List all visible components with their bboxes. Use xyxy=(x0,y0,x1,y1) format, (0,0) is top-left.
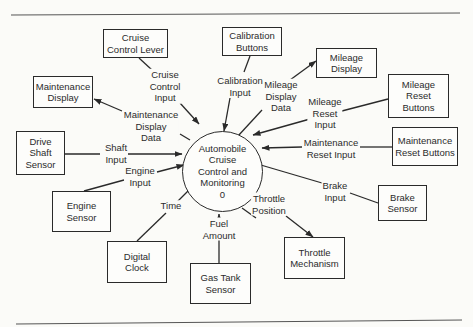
entity-brake-sensor: Brake Sensor xyxy=(378,185,427,221)
flow-line-mileage-display-data xyxy=(290,61,316,80)
flow-label-calibration-input: Calibration Input xyxy=(216,75,263,98)
entity-drive-shaft-sensor: Drive Shaft Sensor xyxy=(16,131,65,175)
entity-digital-clock: Digital Clock xyxy=(107,241,167,283)
context-diagram: Automobile Cruise Control and Monitoring… xyxy=(0,0,473,327)
flow-line-calibration-input-a xyxy=(244,56,250,72)
entity-calibration-buttons: Calibration Buttons xyxy=(222,27,282,56)
flow-line-engine-input xyxy=(157,165,184,172)
flow-line-maintenance-display-data xyxy=(94,99,122,111)
flow-line-time-a xyxy=(137,213,166,241)
flow-label-fuel-amount: Fuel Amount xyxy=(202,218,237,241)
flow-line-brake-input-a xyxy=(350,193,378,203)
flow-label-mileage-display-data: Mileage Display Data xyxy=(263,79,298,114)
entity-maintenance-display: Maintenance Display xyxy=(33,76,93,108)
flow-line-cruise-control-input xyxy=(180,103,199,124)
flow-line-mileage-reset-input-a xyxy=(338,99,388,112)
flow-line-throttle-position xyxy=(286,216,313,237)
flow-label-maintenance-display-data: Maintenance Display Data xyxy=(123,109,179,144)
entity-engine-sensor: Engine Sensor xyxy=(52,191,111,232)
flow-label-cruise-control-input: Cruise Control Input xyxy=(149,69,182,104)
flow-line-mileage-display-data-a xyxy=(238,110,262,136)
flow-label-brake-input: Brake Input xyxy=(322,180,349,203)
entity-maintenance-reset-buttons: Maintenance Reset Buttons xyxy=(392,127,458,166)
flow-line-maintenance-display-data-b xyxy=(180,134,190,140)
bottom-rule xyxy=(16,320,462,324)
flow-label-throttle-position: Throttle Position xyxy=(251,193,287,216)
entity-gas-tank-sensor: Gas Tank Sensor xyxy=(190,263,251,304)
entity-mileage-reset-buttons: Mileage Reset Buttons xyxy=(388,74,449,118)
flow-line-brake-input xyxy=(254,163,322,183)
entity-cruise-control-lever: Cruise Control Lever xyxy=(103,29,168,58)
flow-label-mileage-reset-input: Mileage Reset Input xyxy=(307,96,342,131)
top-rule xyxy=(11,13,460,15)
flow-label-engine-input: Engine Input xyxy=(124,165,156,188)
flow-label-time: Time xyxy=(160,200,183,212)
flow-line-calibration-input xyxy=(224,98,230,131)
entity-throttle-mechanism: Throttle Mechanism xyxy=(284,237,345,279)
flow-line-maintenance-reset-input xyxy=(262,147,302,148)
entity-mileage-display: Mileage Display xyxy=(316,48,377,78)
flow-label-shaft-input: Shaft Input xyxy=(104,142,128,165)
flow-line-engine-input-a xyxy=(84,180,124,191)
flow-label-maintenance-reset-input: Maintenance Reset Input xyxy=(303,137,359,160)
flow-line-mileage-reset-input xyxy=(253,119,310,135)
